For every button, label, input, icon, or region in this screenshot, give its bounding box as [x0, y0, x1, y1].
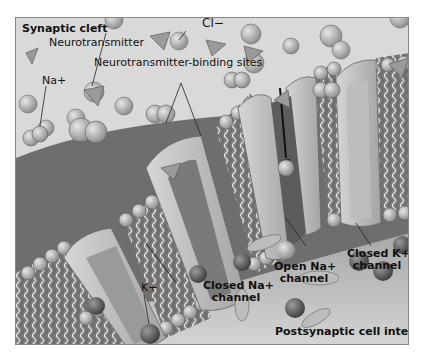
- binding-sites-label: Neurotransmitter-binding sites: [94, 57, 262, 69]
- closed-k-channel: [336, 60, 381, 227]
- sodium-ion-label: Na+: [42, 75, 66, 87]
- cell-interior-label: Postsynaptic cell interior: [275, 326, 409, 338]
- chloride-ion-label: Cl−: [202, 17, 224, 29]
- open-na-channel-label: Open Na+ channel: [274, 261, 334, 285]
- closed-k-channel-label: Closed K+ channel: [347, 248, 407, 272]
- synapse-illustration: Synaptic cleft Cl− Neurotransmitter Neur…: [15, 17, 409, 345]
- closed-na-channel-label: Closed Na+ channel: [203, 280, 269, 304]
- potassium-ion-label: K+: [141, 282, 157, 294]
- synaptic-cleft-label: Synaptic cleft: [22, 23, 107, 35]
- neurotransmitter-label: Neurotransmitter: [49, 37, 144, 49]
